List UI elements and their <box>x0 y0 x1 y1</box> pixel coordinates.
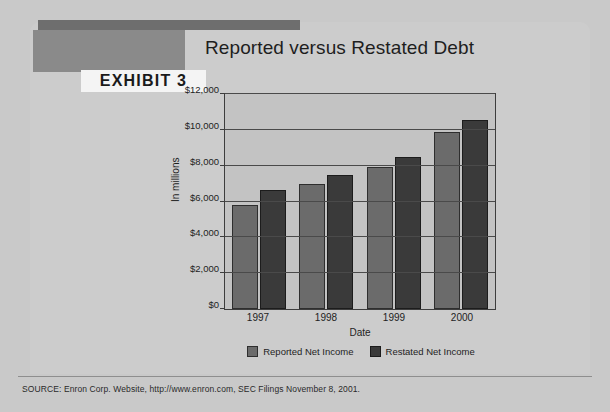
bar-group <box>229 94 288 309</box>
bar-restated <box>395 157 421 309</box>
gridline <box>225 93 495 94</box>
y-axis-tick-mark <box>220 201 225 202</box>
bar-reported <box>232 205 258 309</box>
x-axis-tick-label: 2000 <box>432 312 492 323</box>
gridline <box>225 236 495 237</box>
y-axis-tick-label: $12,000 <box>185 84 219 95</box>
bar-restated <box>260 190 286 309</box>
y-axis-tick-mark <box>220 236 225 237</box>
legend-swatch-icon <box>370 346 381 357</box>
exhibit-page: EXHIBIT 3 Reported versus Restated Debt … <box>0 0 610 412</box>
y-axis-tick-mark <box>220 93 225 94</box>
y-axis-tick-label: $8,000 <box>190 155 219 166</box>
x-axis-title: Date <box>224 327 496 338</box>
legend-swatch-icon <box>247 346 258 357</box>
plot-area: $0$2,000$4,000$6,000$8,000$10,000$12,000 <box>224 93 496 310</box>
y-axis-tick-mark <box>220 129 225 130</box>
y-axis-tick-label: $10,000 <box>185 119 219 130</box>
x-axis-tick-label: 1997 <box>228 312 288 323</box>
footer-divider <box>18 376 592 377</box>
bar-group <box>432 94 491 309</box>
y-axis-title: In millions <box>170 158 181 202</box>
gridline <box>225 272 495 273</box>
bar-reported <box>367 167 393 309</box>
chart-legend: Reported Net IncomeRestated Net Income <box>216 346 506 357</box>
y-axis-tick-label: $0 <box>208 299 219 310</box>
exhibit-badge-block: EXHIBIT 3 <box>33 30 185 72</box>
bar-groups <box>225 94 495 309</box>
y-axis-tick-mark <box>220 165 225 166</box>
gridline <box>225 165 495 166</box>
bar-restated <box>462 120 488 309</box>
legend-item[interactable]: Reported Net Income <box>247 346 353 357</box>
x-axis-tick-labels: 1997199819992000 <box>224 312 496 323</box>
y-axis-tick-label: $4,000 <box>190 227 219 238</box>
bar-reported <box>299 184 325 309</box>
bar-group <box>364 94 423 309</box>
y-axis-tick-label: $6,000 <box>190 191 219 202</box>
page-title: Reported versus Restated Debt <box>205 37 474 59</box>
exhibit-top-rule <box>38 20 300 30</box>
x-axis-tick-label: 1998 <box>296 312 356 323</box>
x-axis-tick-label: 1999 <box>364 312 424 323</box>
bar-restated <box>327 175 353 309</box>
gridline <box>225 201 495 202</box>
bar-group <box>297 94 356 309</box>
source-note: SOURCE: Enron Corp. Website, http://www.… <box>22 384 360 394</box>
legend-label: Restated Net Income <box>386 346 475 357</box>
y-axis-tick-label: $2,000 <box>190 263 219 274</box>
y-axis-tick-mark <box>220 308 225 309</box>
legend-label: Reported Net Income <box>263 346 353 357</box>
gridline <box>225 129 495 130</box>
legend-item[interactable]: Restated Net Income <box>370 346 475 357</box>
bar-reported <box>434 132 460 309</box>
bar-chart: In millions $0$2,000$4,000$6,000$8,000$1… <box>176 84 526 324</box>
y-axis-tick-mark <box>220 272 225 273</box>
